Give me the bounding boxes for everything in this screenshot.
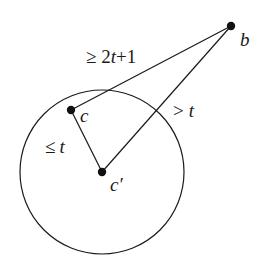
- label-ge-2: ≥ 2: [86, 46, 111, 67]
- point-c-prime: [98, 168, 106, 176]
- label-edge-c-cprime: ≤t: [45, 136, 65, 157]
- diagram-svg: b c c′ ≥ 2t+1 >t ≤t: [0, 0, 266, 271]
- label-edge-cprime-b: >t: [173, 100, 195, 121]
- point-c: [67, 106, 75, 114]
- label-plus-one: +1: [116, 46, 136, 67]
- label-point-c-prime: c′: [110, 174, 123, 195]
- point-b: [227, 22, 235, 30]
- edge-c-b: [71, 26, 231, 110]
- label-t-var: t: [189, 100, 195, 121]
- label-point-b: b: [240, 29, 250, 50]
- label-edge-c-b: ≥ 2t+1: [86, 46, 136, 67]
- diagram-canvas: b c c′ ≥ 2t+1 >t ≤t: [0, 0, 266, 271]
- label-t-var: t: [59, 136, 65, 157]
- label-gt: >: [173, 100, 184, 121]
- label-point-c: c: [80, 105, 89, 126]
- label-le: ≤: [45, 136, 55, 157]
